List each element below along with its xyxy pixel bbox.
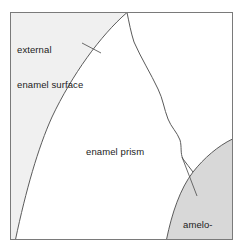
label-enamel-prism-line1: enamel prism: [86, 146, 144, 158]
label-external-enamel-surface: external enamel surface: [17, 21, 83, 113]
label-amelo-dentinal-junction: amelo- dentinal junction: [183, 196, 217, 250]
label-amelo-dentinal-junction-line1: amelo-: [183, 219, 217, 231]
label-enamel-prism: enamel prism: [86, 123, 144, 181]
label-external-enamel-surface-line2: enamel surface: [17, 79, 83, 91]
label-external-enamel-surface-line1: external: [17, 44, 83, 56]
figure-root: external enamel surface enamel prism ame…: [0, 0, 244, 250]
